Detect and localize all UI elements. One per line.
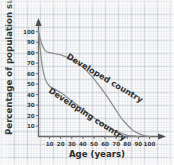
y-tick-label: 100 xyxy=(23,29,35,35)
y-tick-label: 80 xyxy=(27,50,35,56)
x-tick-label: 50 xyxy=(90,141,98,147)
x-tick-label: 10 xyxy=(46,141,54,147)
x-tick-label: 80 xyxy=(123,141,131,147)
y-tick-label: 60 xyxy=(27,71,35,77)
x-tick-label: 90 xyxy=(134,141,142,147)
x-tick-label: 60 xyxy=(101,141,109,147)
y-axis-title: Percentage of population surviving xyxy=(4,0,14,135)
x-tick-label: 100 xyxy=(144,141,156,147)
developing-country-label: Developing country xyxy=(47,85,129,143)
y-tick-label: 90 xyxy=(27,39,35,45)
x-tick-label: 40 xyxy=(79,141,87,147)
y-tick-label: 10 xyxy=(27,123,35,129)
x-axis-arrowhead xyxy=(158,133,166,139)
y-axis-tick-labels: 102030405060708090100 xyxy=(23,29,35,129)
y-tick-label: 30 xyxy=(27,102,35,108)
y-tick-label: 50 xyxy=(27,81,35,87)
y-tick-label: 40 xyxy=(27,92,35,98)
x-axis-title: Age (years) xyxy=(69,149,125,159)
x-tick-label: 30 xyxy=(68,141,76,147)
x-tick-label: 70 xyxy=(112,141,120,147)
chart-figure: Percentage of population surviving 10203… xyxy=(0,0,174,165)
y-tick-label: 20 xyxy=(27,113,35,119)
survivorship-curve-plot: Percentage of population surviving 10203… xyxy=(0,0,174,165)
y-tick-label: 70 xyxy=(27,60,35,66)
x-axis-tick-labels: 102030405060708090100 xyxy=(46,141,156,147)
developed-country-label: Developed country xyxy=(65,51,145,105)
y-axis-arrowhead xyxy=(35,18,41,26)
x-tick-label: 20 xyxy=(57,141,65,147)
